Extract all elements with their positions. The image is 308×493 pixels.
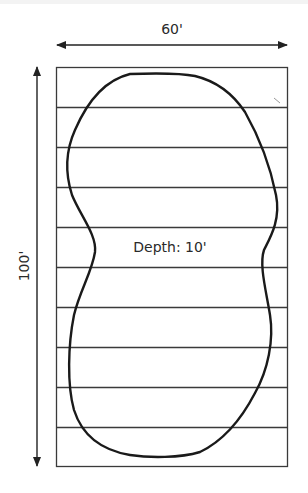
pool-outline: [67, 73, 277, 457]
width-dimension-label: 60': [152, 22, 192, 36]
stray-mark: [274, 98, 280, 103]
length-dimension-label: 100': [17, 244, 31, 288]
depth-label: Depth: 10': [130, 240, 210, 254]
